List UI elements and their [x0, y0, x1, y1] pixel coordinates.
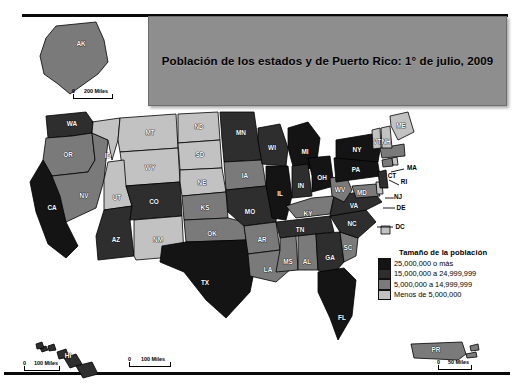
state-label-MD: MD [357, 189, 367, 196]
state-label-SD: SD [196, 151, 205, 158]
legend-title: Tamaño de la población [399, 248, 511, 257]
page-title: Población de los estados y de Puerto Ric… [162, 55, 493, 67]
state-label-AR: AR [257, 236, 267, 243]
state-label-ID: ID [105, 152, 112, 159]
legend-swatch-1 [378, 269, 391, 280]
state-label-NH: NH [381, 138, 391, 145]
state-callout-label-NJ: NJ [394, 193, 403, 200]
state-label-MO: MO [245, 208, 255, 215]
scale-bar-hawaii: 0 100 Miles [24, 366, 60, 371]
state-shape-CT [382, 158, 393, 167]
state-label-CO: CO [149, 198, 159, 205]
state-label-AZ: AZ [112, 236, 121, 243]
legend-label-1: 15,000,000 a 24,999,999 [394, 269, 476, 278]
state-label-ME: ME [396, 122, 406, 129]
scale-bar-alaska: 0 200 Miles [73, 94, 113, 99]
legend-row: 15,000,000 a 24,999,999 [399, 269, 511, 280]
state-label-OK: OK [207, 230, 217, 237]
state-shape-FL [318, 268, 356, 340]
pr-island-0 [470, 344, 479, 351]
state-shape-NJ [378, 170, 388, 188]
hawaii-island-1 [48, 344, 56, 351]
state-label-MN: MN [236, 129, 246, 136]
legend-row: 25,000,000 o más [399, 258, 511, 269]
state-label-WI: WI [268, 144, 276, 151]
state-shape-AZ [96, 206, 134, 260]
hawaii-island-0 [36, 342, 44, 349]
state-label-MT: MT [145, 129, 154, 136]
legend-swatch-2 [378, 279, 391, 290]
state-label-WA: WA [67, 120, 78, 127]
legend-label-2: 5,000,000 a 14,999,999 [394, 280, 472, 289]
scale-bar-main: 0 100 Miles [129, 362, 171, 367]
legend: Tamaño de la población 25,000,000 o más … [399, 248, 511, 300]
state-label-ND: ND [194, 123, 204, 130]
pr-island-1 [466, 352, 477, 358]
state-label-UT: UT [113, 194, 122, 201]
state-label-IN: IN [298, 182, 305, 189]
state-label-GA: GA [325, 254, 335, 261]
state-shape-RI [392, 157, 398, 165]
state-label-AK: AK [76, 40, 86, 47]
state-shape-MN [220, 112, 262, 162]
map-title-banner: Población de los estados y de Puerto Ric… [148, 16, 507, 106]
state-label-KS: KS [201, 204, 211, 211]
state-label-IL: IL [277, 190, 283, 197]
state-label-NV: NV [80, 192, 90, 199]
state-callout-label-HI: HI [65, 352, 72, 359]
state-callout-label-DE: DE [397, 204, 407, 211]
state-label-MI: MI [301, 148, 308, 155]
state-label-IA: IA [242, 172, 249, 179]
state-label-VA: VA [350, 202, 359, 209]
state-label-PA: PA [352, 166, 361, 173]
state-label-OR: OR [63, 151, 73, 158]
state-label-PR: PR [432, 346, 441, 353]
legend-row: 5,000,000 a 14,999,999 [399, 279, 511, 290]
state-label-FL: FL [338, 314, 346, 321]
state-label-WY: WY [145, 164, 156, 171]
state-label-TN: TN [296, 226, 305, 233]
state-label-CA: CA [47, 204, 57, 211]
state-callout-label-RI: RI [401, 178, 408, 185]
state-label-LA: LA [264, 266, 273, 273]
legend-swatch-0 [378, 258, 391, 269]
map-figure: AKPRWAORCANVIDMTWYUTAZCONMNDSDNEKSOKTXMN… [0, 0, 515, 389]
state-label-NY: NY [353, 146, 363, 153]
state-shape-MS [276, 236, 298, 272]
state-label-TX: TX [201, 279, 210, 286]
legend-label-0: 25,000,000 o más [394, 259, 453, 268]
legend-row: Menos de 5,000,000 [399, 290, 511, 301]
legend-label-3: Menos de 5,000,000 [394, 290, 461, 299]
scale-bar-puertorico: 0 50 Miles [438, 365, 472, 370]
state-label-OH: OH [317, 174, 327, 181]
state-label-NM: NM [153, 236, 163, 243]
state-label-NE: NE [198, 179, 208, 186]
state-shape-AK [40, 22, 108, 94]
state-label-VT: VT [373, 138, 381, 145]
state-label-WV: WV [335, 186, 346, 193]
state-label-SC: SC [344, 244, 353, 251]
state-label-KY: KY [304, 210, 314, 217]
state-label-NC: NC [347, 220, 357, 227]
state-callout-label-CT: CT [388, 172, 397, 179]
state-label-AL: AL [303, 258, 312, 265]
state-callout-label-DC: DC [395, 223, 405, 230]
legend-swatch-3 [378, 290, 391, 301]
state-label-MS: MS [283, 258, 293, 265]
state-callout-label-MA: MA [407, 164, 417, 171]
